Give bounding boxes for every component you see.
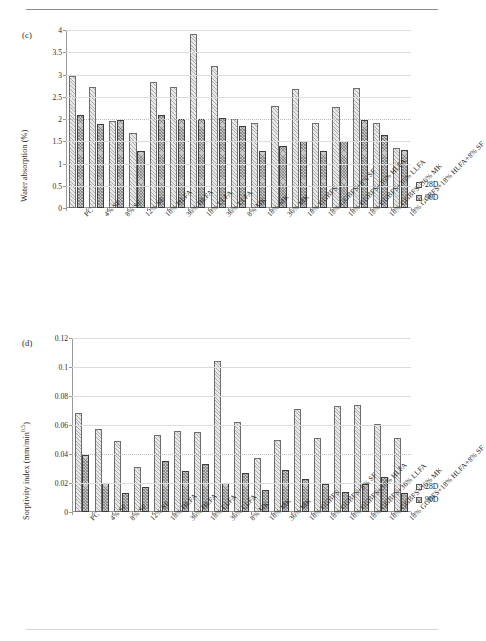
x-axis-tick-mark <box>66 208 67 211</box>
y-axis-tick-mark <box>69 483 72 484</box>
bar-28d <box>154 435 161 512</box>
legend-item-28d[interactable]: 28D <box>416 178 438 191</box>
x-axis-label-wrap: 18% LLFA <box>204 212 210 218</box>
gridline <box>66 141 411 142</box>
legend-item-90d[interactable]: 90D <box>416 493 438 506</box>
y-axis-tick-label: 3.5 <box>53 48 63 57</box>
bar-90d <box>102 483 109 512</box>
y-axis-title-d: Sorptivity index (mm/min0.5) <box>20 422 31 520</box>
x-axis-label-wrap: 12% SF <box>148 516 154 522</box>
x-axis-label-wrap: 18% GGBFS+8% SF <box>327 516 333 522</box>
bar-90d <box>77 115 84 208</box>
x-axis-label-wrap: 36% MK <box>285 212 291 218</box>
bar-28d <box>190 34 197 208</box>
x-axis-label-wrap: 8% SF <box>128 516 134 522</box>
gridline <box>72 396 411 397</box>
bar-28d <box>174 431 181 512</box>
y-axis-tick-mark <box>69 454 72 455</box>
x-axis-label-wrap: 36% MK <box>287 516 293 522</box>
bar-28d <box>314 438 321 512</box>
page-header-rule <box>26 9 438 10</box>
legend-swatch-28d-icon <box>416 182 422 188</box>
x-axis-label-wrap: 18% GGBFS+36% HLFA <box>347 516 353 522</box>
legend-label: 28D <box>425 180 438 189</box>
gridline <box>66 52 411 53</box>
bar-28d <box>129 133 136 208</box>
bar-90d <box>97 124 104 208</box>
legend-label: 90D <box>425 495 438 504</box>
panel-label-c: (c) <box>22 30 32 40</box>
y-axis-tick-mark <box>63 141 66 142</box>
y-axis-tick-label: 0 <box>64 508 68 517</box>
gridline <box>72 454 411 455</box>
legend-swatch-90d-icon <box>416 195 422 201</box>
legend-item-28d[interactable]: 28D <box>416 480 438 493</box>
gridline <box>66 164 411 165</box>
y-axis-tick-label: 0.02 <box>55 479 68 488</box>
x-axis-label-wrap: 36% LLFA <box>228 516 234 522</box>
x-axis-label-wrap: 36% HLFA <box>184 212 190 218</box>
x-axis-label-wrap: 18% GGBFS+36% HLFA <box>346 212 352 218</box>
gridline <box>72 367 411 368</box>
y-axis-tick-label: 0 <box>58 204 62 213</box>
x-axis-label-wrap: 18% GGBFS <box>305 212 311 218</box>
y-axis-tick-mark <box>69 338 72 339</box>
x-axis-label-wrap: PC <box>88 516 94 522</box>
x-axis-label-wrap: 18% MK <box>265 212 271 218</box>
x-axis-label-wrap: 18% LLFA <box>208 516 214 522</box>
y-axis-tick-mark <box>63 186 66 187</box>
y-axis-tick-label: 0.1 <box>59 363 69 372</box>
y-axis-tick-mark <box>63 164 66 165</box>
y-axis-tick-label: 3 <box>58 70 62 79</box>
legend-item-90d[interactable]: 90D <box>416 191 438 204</box>
x-axis-label-wrap: 18% GGBFS+36% MK <box>387 516 393 522</box>
x-axis-label-wrap: PC <box>82 212 88 218</box>
y-axis-tick-mark <box>69 396 72 397</box>
x-axis-label-wrap: 18% GGBFS+36% LLFA <box>367 516 373 522</box>
y-axis-tick-mark <box>63 75 66 76</box>
x-axis-label-wrap: 18% GGBFS+36% LLFA <box>366 212 372 218</box>
x-axis-tick-mark <box>72 512 73 515</box>
bar-28d <box>312 123 319 208</box>
bar-28d <box>271 106 278 208</box>
legend-swatch-28d-icon <box>416 484 422 490</box>
x-axis-label-wrap: 4% SF <box>102 212 108 218</box>
gridline <box>66 97 411 98</box>
bar-28d <box>150 82 157 208</box>
y-axis-tick-mark <box>63 30 66 31</box>
legend-c: 28D90D <box>416 178 438 204</box>
gridline <box>66 119 411 120</box>
y-axis-tick-mark <box>69 512 72 513</box>
bar-28d <box>292 89 299 208</box>
y-axis-tick-label: 0.5 <box>53 181 63 190</box>
y-axis-tick-mark <box>63 52 66 53</box>
gridline <box>72 338 411 339</box>
gridline <box>66 30 411 31</box>
bar-28d <box>214 361 221 512</box>
x-axis-label-wrap: 18% GGBFS+36% MK <box>387 212 393 218</box>
y-axis-title-c: Water absorption (%) <box>20 130 29 202</box>
chart-sorptivity-index: (d) Sorptivity index (mm/min0.5) 00.020.… <box>0 330 462 635</box>
bar-90d <box>158 115 165 208</box>
x-axis-label-wrap: 18% GGBFS+18% HLFA+8% SF <box>407 516 413 522</box>
bar-28d <box>89 87 96 208</box>
y-axis-tick-label: 0.04 <box>55 450 68 459</box>
legend-label: 28D <box>425 482 438 491</box>
y-axis-tick-mark <box>63 97 66 98</box>
bar-28d <box>95 429 102 512</box>
x-axis-label-wrap: 18% HLFA <box>168 516 174 522</box>
x-axis-label-wrap: 18% HLFA <box>163 212 169 218</box>
x-axis-label-wrap: 18% MK <box>267 516 273 522</box>
x-axis-label-wrap: 8% MK <box>248 516 254 522</box>
panel-label-d: (d) <box>22 338 33 348</box>
bar-28d <box>170 87 177 208</box>
bar-28d <box>114 441 121 512</box>
x-axis-label-wrap: 36% LLFA <box>224 212 230 218</box>
gridline <box>66 75 411 76</box>
x-axis-label-wrap: 36% HLFA <box>188 516 194 522</box>
y-axis-tick-label: 1.5 <box>53 137 63 146</box>
y-axis-tick-mark <box>63 208 66 209</box>
x-axis-label-wrap: 8% MK <box>245 212 251 218</box>
y-axis-tick-label: 4 <box>58 26 62 35</box>
